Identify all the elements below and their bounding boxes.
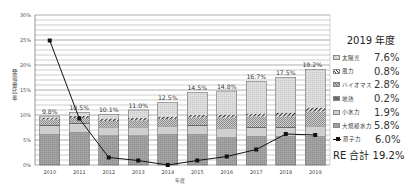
nuclear-marker — [77, 117, 81, 121]
bar-2014 — [158, 103, 178, 166]
segment-太陽光 — [187, 93, 207, 116]
legend-item: 小水力1.9% — [333, 105, 405, 119]
pattern-swatch — [333, 69, 340, 74]
y-axis-ticks: 0%5%10%15%20%25%30% — [20, 12, 31, 168]
legend-items: 太陽光7.6%風力0.8%バイオマス2.8%地熱0.2%小水力1.9%大規模水力… — [333, 51, 405, 146]
legend-item: 原子力6.0% — [333, 133, 405, 147]
segment-大規模水力 — [217, 137, 237, 166]
legend-item: 地熱0.2% — [333, 92, 405, 106]
bar-total-label: 14.8% — [217, 83, 237, 90]
segment-風力 — [128, 118, 148, 121]
nuclear-marker — [225, 155, 229, 159]
legend-value: 1.9% — [374, 107, 399, 118]
bar-total-label: 14.5% — [187, 84, 207, 91]
bar-2013 — [128, 110, 148, 165]
x-tick-label: 2016 — [220, 169, 233, 175]
pattern-swatch — [333, 110, 340, 115]
segment-太陽光 — [305, 70, 325, 108]
pattern-swatch — [333, 55, 340, 60]
legend-label: 地熱 — [342, 95, 374, 103]
legend-item: 大規模水力5.8% — [333, 119, 405, 133]
x-axis-label: 年度 — [175, 177, 185, 184]
bar-2017 — [246, 82, 266, 166]
segment-小水力 — [40, 126, 60, 134]
legend-value: 6.0% — [375, 134, 400, 145]
y-tick-label: 15% — [20, 87, 31, 93]
segment-太陽光 — [276, 78, 296, 114]
segment-バイオマス — [40, 120, 60, 125]
bar-total-label: 9.8% — [42, 108, 58, 115]
pattern-swatch — [333, 96, 340, 101]
nuclear-marker — [254, 148, 258, 152]
bar-total-label: 10.1% — [99, 106, 119, 113]
y-axis-label: 発電量比率 — [12, 68, 18, 102]
legend-label: 太陽光 — [342, 54, 374, 62]
y-tick-label: 25% — [20, 37, 31, 43]
bar-total-label: 19.2% — [302, 61, 322, 68]
nuclear-marker — [313, 133, 317, 137]
segment-太陽光 — [128, 110, 148, 118]
nuclear-marker — [284, 132, 288, 136]
bar-2019 — [305, 70, 325, 166]
x-tick-label: 2017 — [250, 169, 263, 175]
legend-item: 風力0.8% — [333, 65, 405, 79]
bar-2018 — [276, 78, 296, 166]
x-tick-label: 2018 — [279, 169, 292, 175]
segment-大規模水力 — [40, 134, 60, 166]
segment-太陽光 — [246, 82, 266, 114]
bar-2016 — [217, 91, 237, 165]
y-tick-label: 30% — [20, 12, 31, 18]
x-tick-label: 2014 — [161, 169, 174, 175]
x-tick-label: 2012 — [102, 169, 115, 175]
legend-value: 7.6% — [374, 52, 399, 63]
segment-風力 — [40, 118, 60, 120]
x-tick-label: 2010 — [43, 169, 56, 175]
legend-value: 5.8% — [374, 120, 399, 131]
segment-バイオマス — [187, 118, 207, 126]
segment-バイオマス — [276, 117, 296, 128]
legend-label: 風力 — [342, 67, 374, 75]
segment-大規模水力 — [69, 132, 89, 166]
nuclear-marker — [48, 39, 52, 43]
segment-小水力 — [246, 128, 266, 136]
x-tick-label: 2013 — [132, 169, 145, 175]
pattern-swatch — [333, 123, 340, 128]
segment-大規模水力 — [158, 134, 178, 166]
segment-小水力 — [128, 128, 148, 136]
segment-太陽光 — [69, 113, 89, 117]
segment-地熱 — [99, 127, 119, 128]
segment-地熱 — [40, 125, 60, 127]
legend-label: 大規模水力 — [342, 122, 374, 130]
stacked-bars — [40, 70, 326, 166]
legend-label: バイオマス — [342, 81, 374, 89]
segment-バイオマス — [246, 117, 266, 128]
segment-バイオマス — [99, 121, 119, 127]
legend-value: 0.8% — [374, 66, 399, 77]
x-tick-label: 2015 — [191, 169, 204, 175]
legend-item: 太陽光7.6% — [333, 51, 405, 65]
segment-地熱 — [128, 127, 148, 128]
legend-value: 0.2% — [374, 93, 399, 104]
segment-バイオマス — [128, 121, 148, 127]
x-axis-ticks: 2010201120122013201420152016201720182019 — [43, 169, 321, 175]
nuclear-marker — [195, 159, 199, 163]
re-total: RE 合計 19.2% — [333, 147, 405, 162]
segment-地熱 — [217, 128, 237, 129]
segment-地熱 — [246, 127, 266, 128]
pattern-swatch — [333, 82, 340, 87]
x-tick-label: 2011 — [73, 169, 86, 175]
bar-total-label: 16.7% — [246, 73, 266, 80]
segment-大規模水力 — [276, 136, 296, 165]
y-tick-label: 5% — [23, 137, 31, 143]
nuclear-marker — [136, 159, 140, 163]
segment-バイオマス — [158, 119, 178, 126]
x-tick-label: 2019 — [309, 169, 322, 175]
y-tick-label: 20% — [20, 62, 31, 68]
segment-小水力 — [99, 128, 119, 136]
y-tick-label: 0% — [23, 162, 31, 168]
segment-太陽光 — [217, 91, 237, 115]
segment-小水力 — [158, 127, 178, 134]
segment-太陽光 — [99, 115, 119, 119]
legend-label: 原子力 — [343, 135, 375, 143]
segment-風力 — [158, 117, 178, 120]
